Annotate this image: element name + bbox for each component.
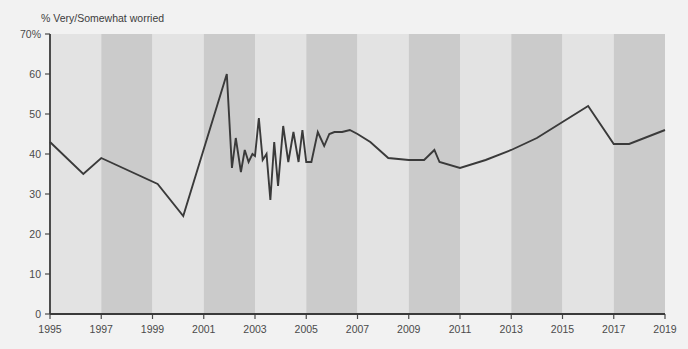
x-tick-label: 1999 (141, 323, 165, 335)
x-tick-label: 2017 (602, 323, 626, 335)
year-band (460, 34, 511, 314)
y-tick-label: 20 (29, 228, 41, 240)
y-tick-label: 60 (29, 68, 41, 80)
year-band (563, 34, 614, 314)
y-tick-label: 10 (29, 268, 41, 280)
x-tick-label: 2005 (295, 323, 319, 335)
x-tick-label: 2015 (551, 323, 575, 335)
x-tick-label: 2009 (397, 323, 421, 335)
year-band (204, 34, 255, 314)
x-tick-label: 2011 (449, 323, 472, 335)
year-band (409, 34, 460, 314)
y-tick-label: 50 (29, 108, 41, 120)
year-band (614, 34, 665, 314)
x-tick-label: 2019 (653, 323, 677, 335)
y-tick-label: 30 (29, 188, 41, 200)
year-band (511, 34, 562, 314)
x-tick-label: 2001 (192, 323, 216, 335)
year-band (255, 34, 306, 314)
line-chart: 010203040506070% 19951997199920012003200… (0, 0, 688, 349)
year-band (306, 34, 357, 314)
year-band (50, 34, 101, 314)
x-tick-label: 2013 (500, 323, 524, 335)
chart-container: 010203040506070% 19951997199920012003200… (0, 0, 688, 349)
y-tick-label: 0 (35, 308, 41, 320)
x-tick-label: 1995 (38, 323, 62, 335)
y-tick-label: 40 (29, 148, 41, 160)
x-tick-label: 2007 (346, 323, 370, 335)
chart-title: % Very/Somewhat worried (41, 12, 164, 24)
year-band-group (50, 34, 665, 314)
x-tick-label: 2003 (243, 323, 267, 335)
x-tick-label: 1997 (90, 323, 114, 335)
y-tick-label: 70% (20, 28, 41, 40)
year-band (358, 34, 409, 314)
year-band (101, 34, 152, 314)
